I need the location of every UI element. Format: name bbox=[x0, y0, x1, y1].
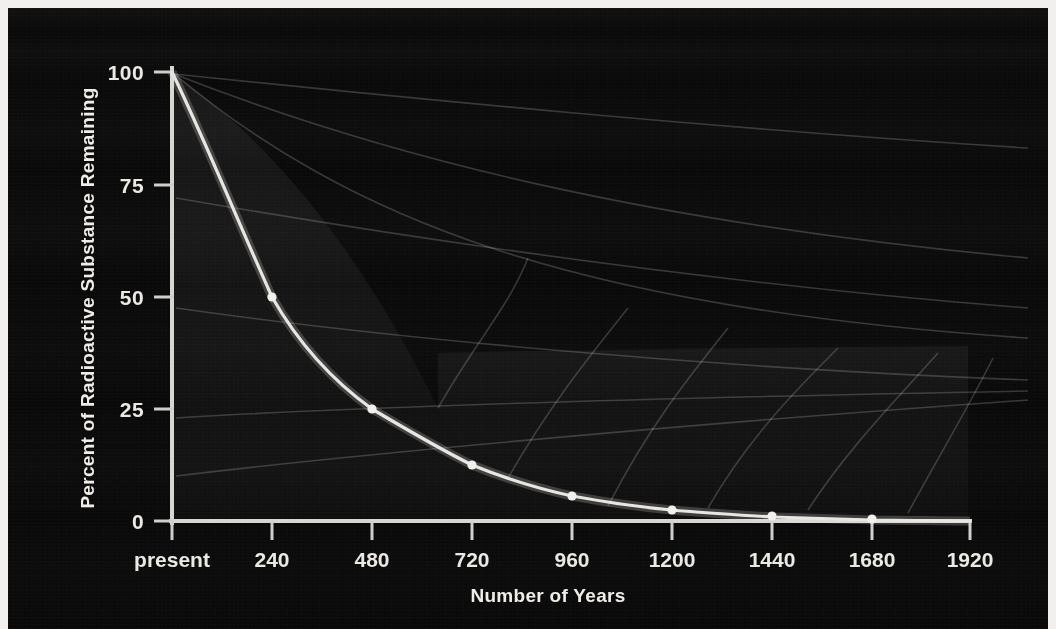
data-point-marker bbox=[567, 491, 576, 500]
data-point-marker bbox=[267, 292, 276, 301]
x-axis-title: Number of Years bbox=[470, 585, 625, 606]
decay-chart-plot: 100 75 50 25 0 present 240 480 720 960 1… bbox=[8, 8, 1048, 629]
figure-frame: 100 75 50 25 0 present 240 480 720 960 1… bbox=[0, 0, 1056, 629]
x-tick-label-1680: 1680 bbox=[849, 548, 896, 571]
x-tick-label-1440: 1440 bbox=[749, 548, 796, 571]
y-axis-title: Percent of Radioactive Substance Remaini… bbox=[77, 87, 98, 508]
y-tick-label-50: 50 bbox=[120, 286, 144, 309]
y-tick-label-100: 100 bbox=[108, 61, 144, 84]
y-tick-label-0: 0 bbox=[132, 510, 144, 533]
data-point-marker bbox=[867, 514, 876, 523]
y-tick-label-25: 25 bbox=[120, 398, 144, 421]
data-point-marker bbox=[767, 511, 776, 520]
x-tick-label-240: 240 bbox=[254, 548, 289, 571]
y-tick-label-75: 75 bbox=[120, 174, 144, 197]
figure-plate: 100 75 50 25 0 present 240 480 720 960 1… bbox=[8, 8, 1048, 629]
data-point-marker bbox=[667, 505, 676, 514]
data-point-marker bbox=[367, 404, 376, 413]
x-tick-label-1200: 1200 bbox=[649, 548, 696, 571]
x-tick-label-present: present bbox=[134, 548, 210, 571]
x-tick-label-720: 720 bbox=[454, 548, 489, 571]
x-tick-label-1920: 1920 bbox=[947, 548, 994, 571]
x-tick-label-960: 960 bbox=[554, 548, 589, 571]
x-tick-label-480: 480 bbox=[354, 548, 389, 571]
data-point-marker bbox=[467, 460, 476, 469]
